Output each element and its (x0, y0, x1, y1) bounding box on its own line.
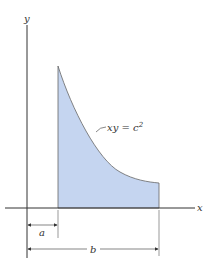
curve-label: xy = c2 (107, 121, 144, 133)
shaded-region (58, 66, 159, 208)
dim-a-label: a (39, 227, 45, 238)
area-under-curve-diagram: y x xy = c2 a b (0, 0, 205, 273)
dim-b-label: b (90, 244, 96, 255)
x-axis-label: x (197, 202, 203, 213)
curve-label-leader (96, 127, 106, 132)
y-axis-label: y (23, 13, 30, 24)
